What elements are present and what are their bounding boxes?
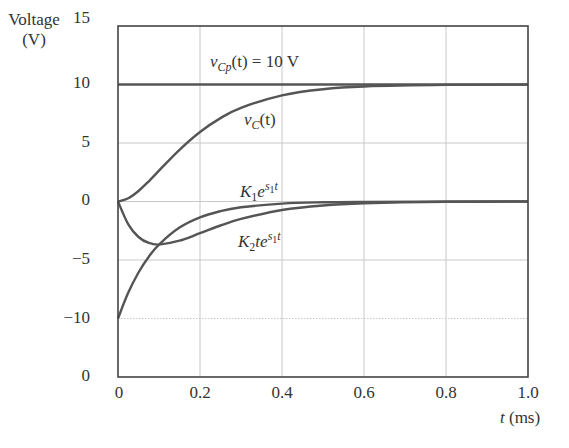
annotation-vc: vC(t) [244,110,276,135]
annotation-k2: K2tes1t [238,226,281,257]
annotation-k1: K1es1t [240,176,278,207]
annotation-vcp: vCp(t) = 10 V [210,52,299,77]
curve-3 [118,202,528,245]
